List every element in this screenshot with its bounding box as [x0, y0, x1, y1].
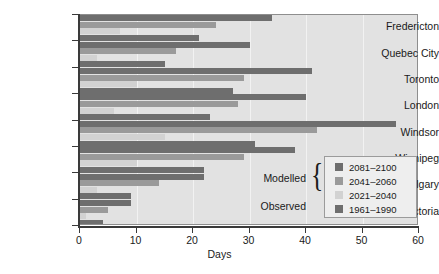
legend-swatch-icon — [335, 177, 343, 185]
x-axis-tick-label: 10 — [130, 234, 142, 246]
legend-group-modelled: Modelled — [228, 172, 306, 184]
legend-item: 2081–2100 — [335, 160, 397, 174]
y-axis-label-fredericton: Fredericton — [365, 20, 439, 32]
y-axis-tick — [72, 40, 79, 41]
bar — [80, 88, 233, 94]
x-axis-tick — [249, 228, 250, 233]
y-axis-tick — [72, 67, 79, 68]
bar — [80, 15, 272, 21]
bar — [80, 114, 210, 120]
bar — [80, 81, 137, 87]
legend-label: 2081–2100 — [349, 162, 397, 173]
x-axis-tick — [362, 228, 363, 233]
x-axis-tick-label: 60 — [412, 234, 424, 246]
x-axis-tick-label: 0 — [76, 234, 82, 246]
bar — [80, 220, 103, 225]
x-axis-tick — [418, 228, 419, 233]
bar — [80, 187, 97, 193]
bar — [80, 48, 176, 54]
bar — [80, 147, 295, 153]
x-axis-tick-label: 40 — [299, 234, 311, 246]
bar — [80, 127, 317, 133]
bar — [80, 68, 312, 74]
legend-label: 2041–2060 — [349, 176, 397, 187]
bar — [80, 134, 165, 140]
legend-item: 2021–2040 — [335, 188, 397, 202]
bar — [80, 154, 244, 160]
y-axis-label-toronto: Toronto — [365, 73, 439, 85]
bar — [80, 180, 159, 186]
x-axis-tick — [192, 228, 193, 233]
bar — [80, 174, 204, 180]
bar — [80, 101, 238, 107]
y-axis-tick — [72, 225, 79, 226]
bar — [80, 75, 244, 81]
modelled-brace-icon: { — [311, 158, 323, 192]
legend-item: 2041–2060 — [335, 174, 397, 188]
x-axis-tick — [305, 228, 306, 233]
x-axis-tick-label: 30 — [243, 234, 255, 246]
bar — [80, 108, 114, 114]
y-axis-label-quebec-city: Quebec City — [365, 47, 439, 59]
bar — [80, 121, 396, 127]
bar — [80, 160, 137, 166]
bar — [80, 141, 255, 147]
y-axis-tick — [72, 93, 79, 94]
bar — [80, 94, 306, 100]
legend-label: 2021–2040 — [349, 190, 397, 201]
bar — [80, 167, 204, 173]
x-axis-tick — [136, 228, 137, 233]
x-axis-tick-label: 50 — [356, 234, 368, 246]
y-axis-label-london: London — [365, 99, 439, 111]
bar — [80, 22, 216, 28]
legend-swatch-icon — [335, 163, 343, 171]
bar — [80, 42, 250, 48]
y-axis-tick — [72, 120, 79, 121]
y-axis-tick — [72, 199, 79, 200]
x-axis-tick — [79, 228, 80, 233]
x-axis-tick-label: 20 — [186, 234, 198, 246]
legend-label: 1961–1990 — [349, 204, 397, 215]
legend: 2081–21002041–20602021–20401961–1990 — [324, 156, 417, 218]
y-axis-tick — [72, 14, 79, 15]
y-axis-label-windsor: Windsor — [365, 126, 439, 138]
y-axis-tick — [72, 172, 79, 173]
x-axis-title: Days — [0, 248, 439, 260]
gridline — [250, 15, 251, 224]
legend-group-observed: Observed — [228, 200, 306, 212]
legend-swatch-icon — [335, 205, 343, 213]
bar — [80, 35, 199, 41]
bar — [80, 213, 86, 219]
bar — [80, 193, 131, 199]
bar — [80, 200, 131, 206]
y-axis-tick — [72, 146, 79, 147]
gridline — [306, 15, 307, 224]
bar — [80, 61, 165, 67]
bar — [80, 28, 120, 34]
bar — [80, 55, 97, 61]
legend-item: 1961–1990 — [335, 202, 397, 216]
bar — [80, 207, 108, 213]
bar-chart-figure: FrederictonQuebec CityTorontoLondonWinds… — [0, 0, 439, 274]
legend-swatch-icon — [335, 191, 343, 199]
